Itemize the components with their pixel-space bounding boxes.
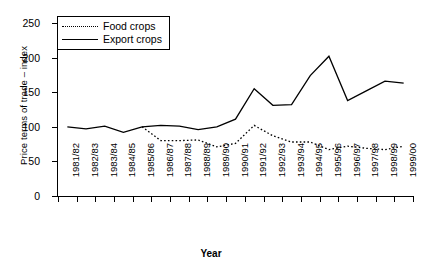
x-axis-tick-label: 1991/92 — [258, 143, 268, 203]
y-axis-tick-label: 100 — [14, 122, 40, 133]
y-axis-tick-mark — [52, 127, 58, 128]
x-axis-tick-label: 1984/85 — [127, 143, 137, 203]
chart-legend: Food crops Export crops — [57, 16, 170, 50]
x-axis-tick-mark — [77, 197, 78, 202]
x-axis-tick-label: 1995/96 — [333, 143, 343, 203]
x-axis-tick-label: 1990/91 — [240, 143, 250, 203]
x-axis-title: Year — [0, 248, 422, 259]
x-axis-tick-label: 1981/82 — [71, 143, 81, 203]
x-axis-tick-label: 1998/99 — [389, 143, 399, 203]
x-axis-tick-label: 1996/97 — [352, 143, 362, 203]
x-axis-tick-mark — [394, 197, 395, 202]
x-axis-tick-mark — [58, 197, 59, 202]
x-axis-tick-label: 1994/95 — [314, 143, 324, 203]
x-axis-tick-mark — [245, 197, 246, 202]
x-axis-tick-mark — [264, 197, 265, 202]
x-axis-tick-mark — [338, 197, 339, 202]
x-axis-tick-label: 1997/98 — [370, 143, 380, 203]
x-axis-tick-label: 1988/89 — [202, 143, 212, 203]
x-axis-tick-mark — [282, 197, 283, 202]
y-axis-tick-label: 50 — [14, 156, 40, 167]
x-axis-tick-label: 1982/83 — [90, 143, 100, 203]
x-axis-tick-label: 1992/93 — [277, 143, 287, 203]
x-axis-tick-mark — [301, 197, 302, 202]
x-axis-tick-label: 1987/88 — [183, 143, 193, 203]
x-axis-tick-mark — [170, 197, 171, 202]
x-axis-tick-label: 1985/86 — [146, 143, 156, 203]
y-axis-tick-labels: 050100150200250 — [14, 0, 40, 265]
y-axis-tick-mark — [52, 58, 58, 59]
y-axis-tick-label: 0 — [14, 191, 40, 202]
y-axis-tick-label: 150 — [14, 87, 40, 98]
legend-swatch-export-crops — [62, 34, 98, 45]
legend-label-export-crops: Export crops — [103, 34, 162, 45]
x-axis-tick-mark — [413, 197, 414, 202]
x-axis-tick-label: 1993/94 — [296, 143, 306, 203]
series-line-export-crops — [67, 56, 403, 132]
x-axis-tick-mark — [133, 197, 134, 202]
x-axis-tick-mark — [357, 197, 358, 202]
x-axis-tick-mark — [226, 197, 227, 202]
x-axis-tick-mark — [151, 197, 152, 202]
x-axis-tick-mark — [207, 197, 208, 202]
x-axis-tick-mark — [95, 197, 96, 202]
y-axis-tick-mark — [52, 92, 58, 93]
legend-label-food-crops: Food crops — [103, 21, 156, 32]
legend-item-food-crops: Food crops — [62, 20, 162, 33]
x-axis-tick-label: 1986/87 — [165, 143, 175, 203]
x-axis-tick-label: 1989/90 — [221, 143, 231, 203]
x-axis-tick-label: 1983/84 — [109, 143, 119, 203]
x-axis-tick-mark — [114, 197, 115, 202]
y-axis-tick-mark — [52, 161, 58, 162]
x-axis-tick-label: 1999/00 — [408, 143, 418, 203]
x-axis-tick-mark — [376, 197, 377, 202]
y-axis-tick-label: 200 — [14, 52, 40, 63]
x-axis-tick-mark — [189, 197, 190, 202]
price-terms-of-trade-chart: Price terms of trade – index 05010015020… — [0, 0, 422, 265]
legend-swatch-food-crops — [62, 21, 98, 32]
y-axis-tick-mark — [52, 23, 58, 24]
y-axis-tick-label: 250 — [14, 18, 40, 29]
legend-item-export-crops: Export crops — [62, 33, 162, 46]
x-axis-tick-mark — [320, 197, 321, 202]
